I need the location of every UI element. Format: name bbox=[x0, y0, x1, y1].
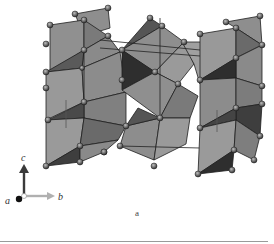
right-polyhedra-block bbox=[198, 16, 262, 174]
c-axis-label: c bbox=[21, 152, 26, 163]
a-axis-label: a bbox=[5, 195, 10, 206]
panel-label: a bbox=[0, 208, 274, 218]
left-polyhedra-block bbox=[46, 8, 126, 166]
a-axis-atom bbox=[16, 196, 22, 202]
c-axis-arrowhead bbox=[19, 164, 29, 173]
origin-atom bbox=[22, 194, 27, 199]
b-axis-label: b bbox=[58, 191, 63, 202]
divider bbox=[0, 241, 268, 242]
b-axis-arrowhead bbox=[47, 192, 55, 200]
